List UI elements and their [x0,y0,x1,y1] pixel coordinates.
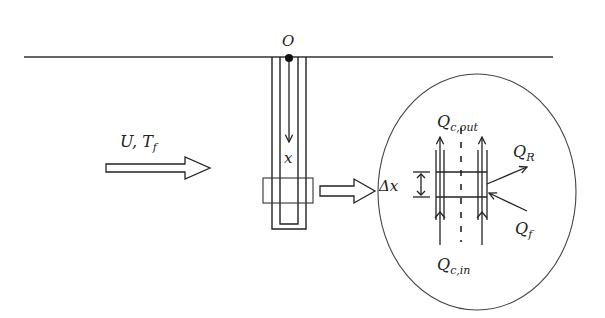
q-out-label: Qc,out [437,112,478,134]
flow-label: U, Tf [120,132,159,154]
depth-label: x [284,149,293,167]
q-r-label: QR [513,142,534,164]
flow-arrow [106,157,210,179]
q-in-label: Qc,in [437,255,470,277]
magnify-arrow [320,179,375,203]
delta-x-dimension [413,172,430,197]
q-f-arrow [489,193,527,211]
q-r-arrow [487,167,527,184]
q-f-label: Qf [515,219,534,241]
origin-label: O [282,32,294,50]
delta-x-label: Δx [378,177,399,195]
detail-ellipse [378,74,576,310]
diagram-canvas: O x U, Tf Δx [0,0,605,318]
